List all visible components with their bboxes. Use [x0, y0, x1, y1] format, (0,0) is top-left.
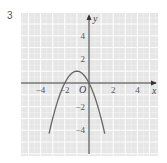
x-tick-label: 2 — [111, 85, 116, 95]
x-axis-label: x — [151, 85, 157, 96]
y-tick-label: −2 — [75, 102, 85, 112]
y-tick-label: 2 — [81, 54, 86, 64]
y-axis-label: y — [92, 13, 98, 24]
y-tick-label: −4 — [75, 125, 85, 135]
x-tick-label: 4 — [135, 85, 140, 95]
y-tick-label: 4 — [81, 31, 86, 41]
x-tick-label: −4 — [36, 85, 46, 95]
parabola-chart: xyO−4−22442−2−4 — [0, 0, 167, 163]
origin-label: O — [79, 84, 86, 95]
